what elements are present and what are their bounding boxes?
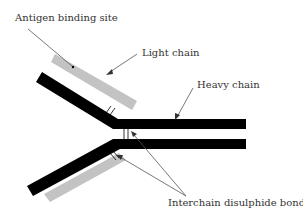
label-antigen-binding-site: Antigen binding site <box>15 13 118 23</box>
arrow-light-chain <box>106 54 137 75</box>
label-heavy-chain: Heavy chain <box>197 80 260 90</box>
arrow-antigen-binding-site <box>28 29 74 68</box>
arrow-disulphide-lower <box>116 155 186 196</box>
antibody-diagram <box>0 0 303 219</box>
label-light-chain: Light chain <box>142 48 200 58</box>
label-interchain-disulphide-bonds: Interchain disulphide bonds <box>168 198 303 208</box>
arrow-heavy-chain <box>175 88 193 120</box>
disulphide-bond-heavy-heavy <box>124 129 128 139</box>
